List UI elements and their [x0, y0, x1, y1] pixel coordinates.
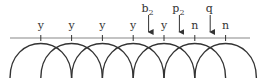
tick-label: y — [67, 19, 75, 32]
arrow-p2: p2 — [172, 2, 184, 32]
tick-labels-group: yyyyynn — [37, 19, 229, 32]
tick-label: n — [222, 19, 229, 32]
arrow-b2: b2 — [142, 2, 154, 32]
arrows-group: b2p2q — [142, 2, 213, 32]
arc-diagram: yyyyynn b2p2q — [0, 0, 262, 80]
tick-label: y — [160, 19, 168, 32]
arrow-q: q — [206, 2, 213, 32]
arrow-label: p2 — [172, 2, 184, 17]
arrow-label: q — [206, 2, 213, 15]
tick-label: y — [129, 19, 137, 32]
arrow-label: b2 — [142, 2, 154, 17]
tick-label: n — [191, 19, 198, 32]
arcs-group — [10, 44, 256, 79]
tick-label: y — [98, 19, 106, 32]
tick-label: y — [37, 19, 45, 32]
